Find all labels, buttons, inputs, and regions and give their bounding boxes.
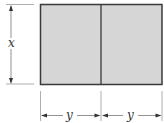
- arrow-left-icon: [41, 114, 47, 118]
- arrow-up-icon: [9, 5, 13, 11]
- right-width-label: y: [126, 108, 134, 122]
- rectangle-left-part: [40, 5, 101, 85]
- arrow-right-icon: [95, 114, 101, 118]
- rectangle-right-part: [101, 5, 162, 85]
- arrow-right-icon: [156, 114, 162, 118]
- diagram-canvas: x y y: [0, 0, 164, 123]
- arrow-down-icon: [9, 78, 13, 84]
- width-dimensions: y y: [41, 91, 163, 122]
- height-dimension: x: [6, 5, 34, 85]
- left-width-label: y: [65, 108, 73, 122]
- arrow-left-icon: [102, 114, 108, 118]
- height-label: x: [8, 36, 15, 50]
